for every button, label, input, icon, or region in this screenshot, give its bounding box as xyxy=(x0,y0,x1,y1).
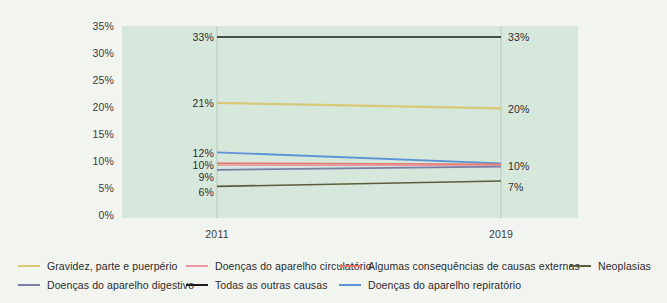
line-chart: 35% 30% 25% 20% 15% 10% 5% 0% 2011 2019 … xyxy=(0,0,667,303)
series-line-aparelho-repiratorio xyxy=(217,152,501,163)
legend-item-todas-as-outras-causas[interactable]: Todas as outras causas xyxy=(186,276,328,293)
legend-label: Neoplasias xyxy=(598,260,651,272)
data-label-gravidez-start: 21% xyxy=(182,97,214,109)
legend-item-aparelho-repiratorio[interactable]: Doenças do aparelho repiratório xyxy=(339,276,521,293)
series-line-neoplasias xyxy=(217,181,501,186)
legend-label: Gravidez, parte e puerpério xyxy=(47,260,178,272)
data-label-neoplasias-start: 6% xyxy=(182,186,214,198)
legend-item-neoplasias[interactable]: Neoplasias xyxy=(569,257,651,274)
legend-swatch-line-icon xyxy=(186,284,208,286)
data-label-neoplasias-end: 7% xyxy=(508,181,540,193)
legend-row-1: Gravidez, parte e puerpério Doenças do a… xyxy=(0,257,667,274)
data-label-aparelho-repiratorio-start: 12% xyxy=(182,147,214,159)
legend-item-aparelho-digestivo[interactable]: Doenças do aparelho digestivo xyxy=(18,276,194,293)
legend-swatch-line-icon xyxy=(186,265,208,267)
data-label-aparelho-circulatorio-start: 10% xyxy=(182,159,214,171)
legend-row-2: Doenças do aparelho digestivo Todas as o… xyxy=(0,276,667,293)
legend-swatch-line-icon xyxy=(569,265,591,267)
data-label-aparelho-circulatorio-end: 10% xyxy=(508,160,540,172)
legend-label: Algumas consequências de causas externas xyxy=(368,260,580,272)
data-label-aparelho-digestivo-start: 9% xyxy=(182,171,214,183)
legend-item-causas-externas[interactable]: Algumas consequências de causas externas xyxy=(339,257,580,274)
legend-label: Todas as outras causas xyxy=(215,279,328,291)
legend-label: Doenças do aparelho digestivo xyxy=(47,279,194,291)
data-label-todas-as-outras-causas-start: 33% xyxy=(182,31,214,43)
legend-swatch-line-icon xyxy=(339,265,361,267)
chart-legend: Gravidez, parte e puerpério Doenças do a… xyxy=(0,252,667,303)
legend-item-gravidez[interactable]: Gravidez, parte e puerpério xyxy=(18,257,178,274)
legend-swatch-line-icon xyxy=(339,284,361,286)
series-line-aparelho-circulatorio xyxy=(217,165,501,166)
data-label-todas-as-outras-causas-end: 33% xyxy=(508,31,540,43)
legend-swatch-line-icon xyxy=(18,265,40,267)
legend-swatch-line-icon xyxy=(18,284,40,286)
series-line-gravidez xyxy=(217,103,501,108)
series-line-aparelho-digestivo xyxy=(217,167,501,170)
legend-label: Doenças do aparelho repiratório xyxy=(368,279,521,291)
data-label-gravidez-end: 20% xyxy=(508,103,540,115)
